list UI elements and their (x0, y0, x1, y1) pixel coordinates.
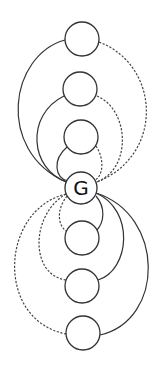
edge-bottom-left (15, 194, 66, 334)
edge-fifth-left (59, 196, 67, 231)
node-upper-3[interactable] (64, 120, 98, 154)
edge-second-left (37, 96, 67, 182)
node-center-label: G (73, 176, 89, 200)
node-lower-1[interactable] (65, 221, 99, 255)
edge-third-left (57, 147, 68, 181)
edge-fifth-right (96, 196, 103, 230)
edge-sixth-left (39, 194, 66, 280)
node-upper-2[interactable] (63, 72, 97, 106)
edge-bottom-right (96, 193, 148, 335)
node-top[interactable] (65, 22, 99, 56)
edge-top-right (97, 42, 146, 182)
diagram-canvas: G (0, 0, 162, 370)
node-lower-2[interactable] (65, 269, 99, 303)
node-bottom[interactable] (66, 316, 100, 350)
edge-third-right (95, 146, 102, 180)
